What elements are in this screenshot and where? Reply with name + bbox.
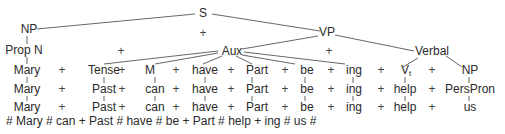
row3-ing: ing	[346, 100, 362, 114]
plus-sign: +	[118, 63, 125, 77]
vt-label: V	[401, 63, 409, 77]
plus-sign: +	[327, 100, 334, 114]
row2-help: help	[394, 82, 417, 96]
node-prop-n: Prop N	[5, 43, 42, 57]
row3-part: Part	[246, 100, 268, 114]
plus-sign: +	[58, 82, 65, 96]
row2-ing: ing	[346, 82, 362, 96]
plus-sign: +	[58, 100, 65, 114]
row2-part: Part	[246, 82, 268, 96]
plus-sign: +	[281, 63, 288, 77]
row1-ing: ing	[346, 63, 362, 77]
node-np: NP	[21, 22, 38, 36]
final-surface-string: # Mary # can + Past # have # be + Part #…	[6, 114, 317, 128]
plus-sign: +	[227, 63, 234, 77]
row1-np: NP	[462, 63, 479, 77]
plus-sign: +	[118, 82, 125, 96]
row2-mary: Mary	[14, 82, 41, 96]
row2-perspron: PersPron	[445, 82, 495, 96]
plus-sign: +	[428, 63, 435, 77]
plus-sign: +	[172, 63, 179, 77]
node-verbal: Verbal	[415, 44, 449, 58]
row1-part: Part	[246, 63, 268, 77]
row1-vt: Vt	[401, 63, 411, 81]
plus-sign: +	[428, 100, 435, 114]
row3-us: us	[464, 100, 477, 114]
plus-sign: +	[327, 63, 334, 77]
plus-sign: +	[117, 44, 124, 58]
row3-have: have	[192, 100, 218, 114]
plus-sign: +	[172, 82, 179, 96]
plus-sign: +	[199, 26, 206, 40]
row2-be: be	[300, 82, 313, 96]
node-aux: Aux	[222, 44, 243, 58]
node-s: S	[199, 6, 207, 20]
row1-mary: Mary	[14, 63, 41, 77]
row2-can: can	[145, 82, 164, 96]
row3-can: can	[145, 100, 164, 114]
row2-past: Past	[92, 82, 116, 96]
plus-sign: +	[428, 82, 435, 96]
row1-be: be	[300, 63, 313, 77]
plus-sign: +	[281, 82, 288, 96]
plus-sign: +	[58, 63, 65, 77]
plus-sign: +	[377, 63, 384, 77]
plus-sign: +	[172, 100, 179, 114]
row3-mary: Mary	[14, 100, 41, 114]
plus-sign: +	[118, 100, 125, 114]
syntax-tree-diagram: S NP VP + Prop N + Aux + Verbal Mary + T…	[0, 0, 505, 134]
plus-sign: +	[227, 100, 234, 114]
plus-sign: +	[377, 82, 384, 96]
plus-sign: +	[325, 44, 332, 58]
row1-tense: Tense	[88, 63, 120, 77]
plus-sign: +	[281, 100, 288, 114]
row3-past: Past	[92, 100, 116, 114]
row1-have: have	[192, 63, 218, 77]
row3-help: help	[394, 100, 417, 114]
vt-subscript: t	[409, 69, 411, 78]
row1-m: M	[145, 63, 155, 77]
node-vp: VP	[319, 25, 335, 39]
plus-sign: +	[327, 82, 334, 96]
plus-sign: +	[227, 82, 234, 96]
row3-be: be	[300, 100, 313, 114]
row2-have: have	[192, 82, 218, 96]
plus-sign: +	[377, 100, 384, 114]
